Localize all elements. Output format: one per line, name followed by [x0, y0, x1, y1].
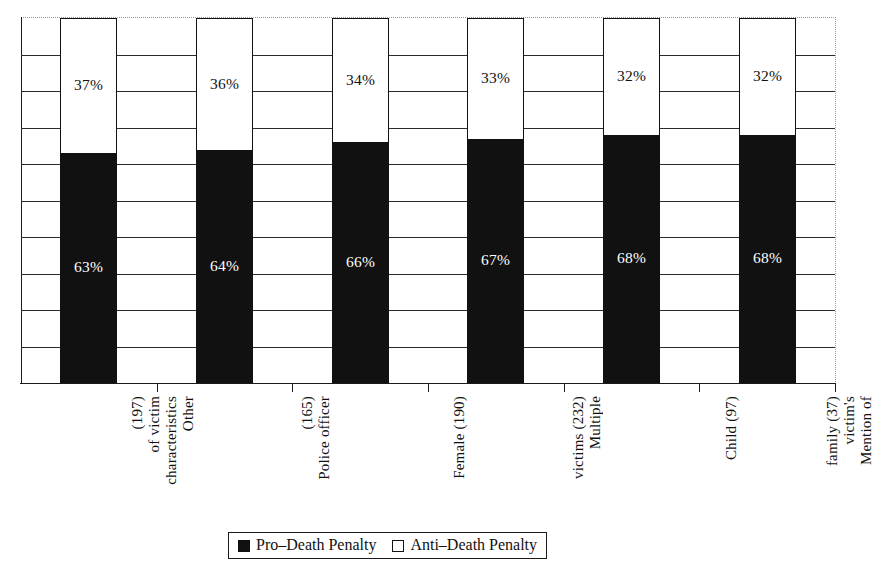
legend-label: Anti–Death Penalty	[410, 537, 537, 553]
gridline	[21, 347, 835, 348]
bar-segment-anti-death-penalty[interactable]: 33%	[468, 19, 523, 139]
x-axis-tick	[292, 383, 293, 392]
stacked-bar[interactable]: 32%68%	[603, 18, 660, 383]
chart-legend: Pro–Death PenaltyAnti–Death Penalty	[228, 532, 547, 559]
category-label: Police officer(165)	[213, 396, 333, 521]
gridline	[21, 128, 835, 129]
bar-value-label: 34%	[346, 72, 375, 88]
stacked-bar[interactable]: 33%67%	[467, 18, 524, 383]
bar-segment-anti-death-penalty[interactable]: 32%	[740, 19, 795, 135]
category-label-line: of victim	[146, 396, 163, 452]
bar-segment-anti-death-penalty[interactable]: 36%	[197, 19, 252, 150]
gridline	[21, 164, 835, 165]
stacked-bar[interactable]: 36%64%	[196, 18, 253, 383]
legend-entry[interactable]: Pro–Death Penalty	[238, 538, 376, 554]
category-label: Female (190)	[348, 396, 468, 521]
stacked-bar[interactable]: 32%68%	[739, 18, 796, 383]
category-label-line: family (37)	[824, 396, 841, 466]
category-label: Mention ofvictim'sfamily (37)	[755, 396, 875, 521]
bar-segment-pro-death-penalty[interactable]: 66%	[333, 142, 388, 382]
gridline	[21, 91, 835, 92]
category-label-line: Mention of	[858, 396, 875, 465]
category-label-line: (197)	[129, 396, 146, 430]
bar-segment-pro-death-penalty[interactable]: 64%	[197, 150, 252, 382]
bar-value-label: 63%	[74, 259, 103, 275]
category-label: Othercharacteristicsof victim(197)	[77, 396, 197, 521]
legend-label: Pro–Death Penalty	[256, 537, 376, 553]
x-axis-tick	[699, 383, 700, 392]
x-axis-tick	[835, 383, 836, 392]
legend-entry[interactable]: Anti–Death Penalty	[392, 538, 537, 554]
bar-group[interactable]: 36%64%	[196, 18, 253, 383]
bar-value-label: 68%	[617, 250, 646, 266]
plot-area: 37%63%36%64%34%66%33%67%32%68%32%68%	[21, 18, 835, 383]
bar-segment-pro-death-penalty[interactable]: 67%	[468, 139, 523, 382]
bar-segment-anti-death-penalty[interactable]: 37%	[61, 19, 116, 153]
bar-group[interactable]: 32%68%	[739, 18, 796, 383]
bar-group[interactable]: 33%67%	[467, 18, 524, 383]
x-axis-tick	[428, 383, 429, 392]
bar-group[interactable]: 32%68%	[603, 18, 660, 383]
gridline	[21, 237, 835, 238]
bar-value-label: 32%	[617, 68, 646, 84]
category-label-line: Police officer	[316, 396, 333, 480]
category-label-line: characteristics	[163, 396, 180, 485]
category-label: Child (97)	[620, 396, 740, 521]
category-label-line: victim's	[841, 396, 858, 444]
stacked-bar[interactable]: 37%63%	[60, 18, 117, 383]
bar-value-label: 64%	[210, 258, 239, 274]
bar-segment-anti-death-penalty[interactable]: 34%	[333, 19, 388, 142]
filled-square-icon	[238, 540, 250, 552]
bar-segment-anti-death-penalty[interactable]: 32%	[604, 19, 659, 135]
category-label-line: Female (190)	[451, 396, 468, 479]
x-axis-tick	[157, 383, 158, 392]
bar-value-label: 66%	[346, 254, 375, 270]
bar-value-label: 36%	[210, 76, 239, 92]
bar-value-label: 68%	[753, 250, 782, 266]
category-label-line: Child (97)	[723, 396, 740, 460]
category-label-line: Other	[180, 396, 197, 431]
bar-segment-pro-death-penalty[interactable]: 68%	[604, 135, 659, 382]
bar-value-label: 32%	[753, 68, 782, 84]
plot-right-border	[835, 17, 836, 384]
category-label-line: (165)	[299, 396, 316, 430]
gridline	[21, 274, 835, 275]
gridline	[21, 310, 835, 311]
bar-segment-pro-death-penalty[interactable]: 63%	[61, 153, 116, 382]
bar-group[interactable]: 34%66%	[332, 18, 389, 383]
gridline	[21, 201, 835, 202]
category-label-line: Multiple	[587, 396, 604, 449]
bar-group[interactable]: 37%63%	[60, 18, 117, 383]
bar-segment-pro-death-penalty[interactable]: 68%	[740, 135, 795, 382]
x-axis-tick	[564, 383, 565, 392]
bar-value-label: 37%	[74, 77, 103, 93]
category-label-line: victims (232)	[570, 396, 587, 479]
empty-square-icon	[392, 540, 404, 552]
category-label: Multiplevictims (232)	[484, 396, 604, 521]
bar-value-label: 67%	[481, 252, 510, 268]
stacked-bar[interactable]: 34%66%	[332, 18, 389, 383]
bar-value-label: 33%	[481, 70, 510, 86]
gridline	[21, 55, 835, 56]
